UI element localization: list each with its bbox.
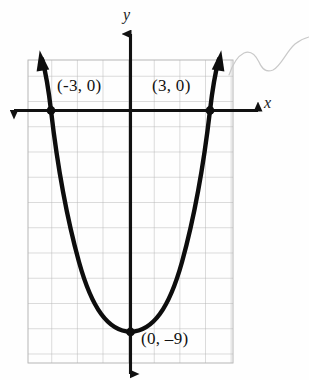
label-right-root: (3, 0)	[152, 76, 191, 96]
point-vertex	[126, 328, 135, 337]
point-left-root	[47, 106, 56, 115]
y-axis-label: y	[123, 6, 130, 24]
graph-figure: (-3, 0) (3, 0) (0, –9) y x	[0, 0, 309, 380]
point-right-root	[206, 106, 215, 115]
label-left-root: (-3, 0)	[57, 76, 102, 96]
label-vertex: (0, –9)	[141, 329, 188, 349]
scan-artifact	[229, 37, 309, 75]
coordinate-plane-svg	[0, 0, 309, 380]
x-axis-label: x	[264, 94, 271, 112]
